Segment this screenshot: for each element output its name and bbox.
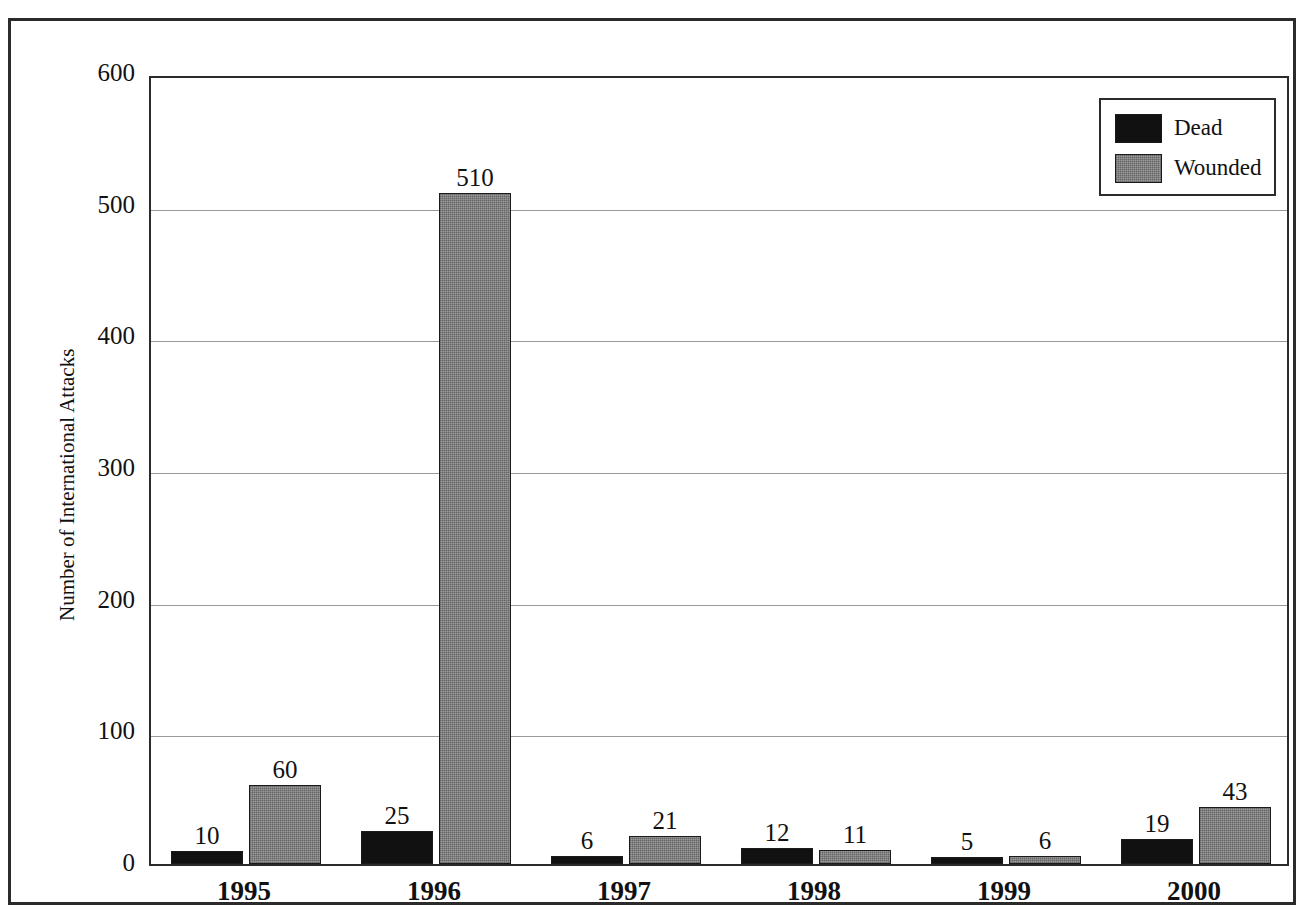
legend-label-wounded: Wounded — [1174, 155, 1262, 181]
bar-wounded-1999[interactable] — [1009, 856, 1081, 864]
x-axis-tick-label-1996: 1996 — [339, 876, 529, 907]
legend-item-wounded[interactable]: Wounded — [1115, 148, 1274, 188]
bar-value-label: 25 — [345, 802, 449, 830]
y-axis-tick-label: 400 — [11, 322, 135, 350]
bar-wounded-1997[interactable] — [629, 836, 701, 864]
bar-wounded-1998[interactable] — [819, 850, 891, 864]
bar-dead-1997[interactable] — [551, 856, 623, 864]
x-axis-tick-label-1997: 1997 — [529, 876, 719, 907]
bar-value-label: 10 — [155, 822, 259, 850]
y-axis-tick-label: 200 — [11, 586, 135, 614]
x-axis-tick-label-2000: 2000 — [1099, 876, 1289, 907]
x-axis-tick-label-1995: 1995 — [149, 876, 339, 907]
y-axis-tick-label: 500 — [11, 191, 135, 219]
x-axis-tick-label-1998: 1998 — [719, 876, 909, 907]
gridline — [151, 736, 1287, 737]
chart-outer-frame: Number of International Attacks 01002003… — [8, 18, 1296, 905]
y-axis-tick-label: 300 — [11, 454, 135, 482]
bar-dead-1999[interactable] — [931, 857, 1003, 864]
legend-swatch-dead-icon — [1115, 114, 1162, 143]
bar-value-label: 11 — [803, 821, 907, 849]
gridline — [151, 605, 1287, 606]
y-axis-title: Number of International Attacks — [55, 349, 80, 621]
gridline — [151, 210, 1287, 211]
gridline — [151, 341, 1287, 342]
bar-value-label: 60 — [233, 756, 337, 784]
bar-value-label: 21 — [613, 807, 717, 835]
chart-title-strip — [0, 0, 1312, 14]
y-axis-tick-label: 0 — [11, 849, 135, 877]
bar-wounded-1995[interactable] — [249, 785, 321, 864]
bar-wounded-1996[interactable] — [439, 193, 511, 865]
y-axis-tick-label: 600 — [11, 59, 135, 87]
bar-value-label: 510 — [423, 164, 527, 192]
legend-label-dead: Dead — [1174, 115, 1223, 141]
legend-swatch-wounded-icon — [1115, 154, 1162, 183]
bar-dead-2000[interactable] — [1121, 839, 1193, 864]
bar-dead-1998[interactable] — [741, 848, 813, 864]
gridline — [151, 473, 1287, 474]
y-axis-tick-label: 100 — [11, 717, 135, 745]
legend-item-dead[interactable]: Dead — [1115, 108, 1274, 148]
x-axis-tick-label-1999: 1999 — [909, 876, 1099, 907]
bar-dead-1995[interactable] — [171, 851, 243, 864]
bar-dead-1996[interactable] — [361, 831, 433, 864]
bar-value-label: 19 — [1105, 810, 1209, 838]
bar-value-label: 6 — [993, 827, 1097, 855]
bar-value-label: 43 — [1183, 778, 1287, 806]
bar-wounded-2000[interactable] — [1199, 807, 1271, 864]
chart-legend: Dead Wounded — [1099, 98, 1276, 196]
